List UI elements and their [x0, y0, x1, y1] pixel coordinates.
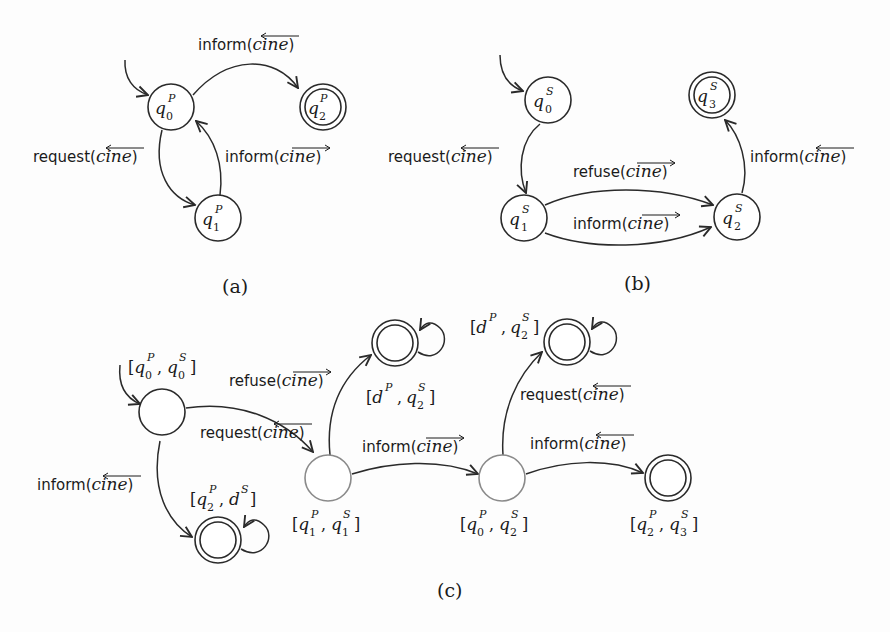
svg-text:S: S: [343, 508, 351, 521]
edge-label-inform-left: inform(cine): [750, 145, 854, 166]
state-label-c00: [q P 0 , q S 0 ]: [128, 351, 196, 382]
svg-text:refuse(cine): refuse(cine): [229, 370, 324, 390]
svg-text:1: 1: [342, 526, 349, 539]
edge-label-inform-left: inform(cine): [198, 33, 299, 54]
svg-text:,: ,: [659, 515, 664, 534]
svg-text:inform(cine): inform(cine): [198, 34, 294, 54]
svg-text:2: 2: [647, 526, 654, 539]
svg-text:2: 2: [734, 220, 741, 233]
edge-q0-q2: [193, 64, 298, 95]
svg-text:q: q: [406, 387, 417, 407]
state-c23-inner: [650, 460, 686, 496]
svg-text:refuse(cine): refuse(cine): [573, 161, 668, 181]
initial-arrow: [500, 55, 523, 91]
selfloop-cd2b: [590, 322, 616, 355]
svg-text:1: 1: [213, 221, 220, 234]
svg-text:,: ,: [489, 515, 494, 534]
svg-text:request(cine): request(cine): [388, 146, 493, 166]
svg-text:]: ]: [354, 515, 360, 534]
svg-text:d: d: [229, 489, 240, 509]
svg-text:,: ,: [321, 515, 326, 534]
subfigure-c: [q P 0 , q S 0 ] [q P 1 , q S 1 ] [q P 0…: [37, 311, 698, 601]
svg-text:[q: [q: [292, 514, 309, 534]
svg-text:q: q: [509, 209, 520, 229]
state-cd2b-inner: [549, 324, 585, 360]
svg-text:S: S: [735, 202, 743, 215]
svg-text:,: ,: [397, 388, 402, 407]
svg-text:[d: [d: [470, 317, 487, 337]
state-c00: [139, 389, 185, 435]
svg-text:S: S: [522, 311, 530, 324]
edge-q1-q2-refuse: [545, 190, 713, 205]
state-label-c02: [q P 0 , q S 2 ]: [460, 508, 528, 539]
svg-text:S: S: [418, 381, 426, 394]
svg-text:request(cine): request(cine): [520, 384, 625, 404]
svg-text:2: 2: [319, 110, 326, 123]
state-c11: [305, 455, 351, 501]
svg-text:P: P: [384, 381, 393, 394]
edge-label-request-left: request(cine): [388, 145, 499, 166]
svg-text:q: q: [167, 357, 178, 377]
state-q0S: [525, 77, 571, 123]
svg-text:0: 0: [145, 369, 152, 382]
svg-text:S: S: [511, 508, 519, 521]
svg-text:,: ,: [157, 358, 162, 377]
svg-text:2: 2: [521, 329, 528, 342]
selfloop-c2d: [241, 520, 269, 553]
svg-text:P: P: [488, 311, 497, 324]
state-label-cd2b: [d P , q S 2 ]: [470, 311, 539, 342]
svg-text:0: 0: [477, 526, 484, 539]
svg-text:q: q: [499, 514, 510, 534]
edge-label-request-left-2: request(cine): [520, 383, 631, 404]
svg-text:,: ,: [501, 318, 506, 337]
svg-text:q: q: [697, 86, 708, 106]
svg-text:[q: [q: [630, 514, 647, 534]
svg-text:P: P: [208, 483, 217, 496]
svg-text:]: ]: [429, 388, 435, 407]
edge-c02-c23: [526, 463, 643, 474]
svg-text:]: ]: [190, 358, 196, 377]
svg-text:inform(cine): inform(cine): [530, 433, 626, 453]
svg-text:q: q: [533, 91, 544, 111]
svg-text:[q: [q: [460, 514, 477, 534]
svg-text:P: P: [310, 508, 319, 521]
svg-text:q: q: [722, 208, 733, 228]
subfigure-a: q P 0 q P 1 q P 2 inform(cine) request(c…: [33, 33, 346, 297]
svg-text:]: ]: [692, 515, 698, 534]
svg-text:2: 2: [417, 399, 424, 412]
subfigure-b: q S 0 q S 1 q S 2 q S 3 request(cine) re…: [388, 55, 854, 294]
svg-text:S: S: [546, 85, 554, 98]
svg-text:q: q: [510, 317, 521, 337]
svg-text:3: 3: [709, 98, 716, 111]
state-c02: [479, 455, 525, 501]
svg-text:0: 0: [166, 110, 173, 123]
svg-text:S: S: [681, 508, 689, 521]
svg-text:]: ]: [250, 490, 256, 509]
state-q2S: [714, 194, 760, 240]
edge-label-inform-left-2: inform(cine): [530, 432, 634, 453]
svg-text:S: S: [522, 203, 530, 216]
svg-text:P: P: [214, 203, 223, 216]
svg-text:inform(cine): inform(cine): [37, 474, 133, 494]
edge-c11-c02: [352, 463, 478, 474]
edge-label-request-left: request(cine): [200, 421, 312, 442]
svg-text:P: P: [146, 351, 155, 364]
state-label-cd2a: [d P , q S 2 ]: [366, 381, 435, 412]
svg-text:S: S: [179, 351, 187, 364]
automata-figure: q P 0 q P 1 q P 2 inform(cine) request(c…: [0, 0, 890, 632]
svg-text:[q: [q: [128, 357, 145, 377]
edge-c00-c2d: [157, 441, 192, 537]
state-label-c23: [q P 2 , q S 3 ]: [630, 508, 698, 539]
state-c2d-inner: [200, 522, 236, 558]
svg-text:q: q: [331, 514, 342, 534]
svg-text:S: S: [241, 483, 249, 496]
state-label-c11: [q P 1 , q S 1 ]: [292, 508, 360, 539]
caption-c: (c): [437, 579, 462, 601]
state-cd2a-inner: [377, 325, 413, 361]
edge-label-refuse-right: refuse(cine): [573, 160, 675, 181]
svg-text:inform(cine): inform(cine): [750, 146, 846, 166]
svg-text:inform(cine): inform(cine): [362, 436, 458, 456]
caption-b: (b): [624, 272, 651, 294]
svg-text:1: 1: [521, 221, 528, 234]
caption-a: (a): [222, 275, 248, 297]
